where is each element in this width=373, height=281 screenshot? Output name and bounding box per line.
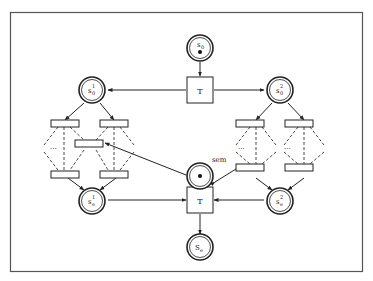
- transition-bar: [100, 171, 128, 178]
- transition-T-top: T: [187, 77, 213, 103]
- transition-bar-sem: [236, 164, 264, 171]
- token: [198, 174, 202, 178]
- svg-text:1: 1: [92, 83, 95, 89]
- place-se-2: s e 2: [267, 188, 293, 214]
- petri-net-diagram: ... ... ... T T s 0: [0, 0, 373, 281]
- svg-text:1: 1: [92, 194, 95, 200]
- svg-text:...: ...: [238, 143, 245, 151]
- svg-text:T: T: [197, 87, 203, 96]
- place-s0: s 0: [187, 35, 213, 61]
- place-se: S e: [187, 234, 213, 260]
- transition-T-bottom: T: [187, 187, 213, 213]
- svg-text:T: T: [197, 197, 203, 206]
- place-sem: sem: [187, 156, 227, 189]
- svg-text:e: e: [200, 247, 203, 253]
- svg-text:e: e: [92, 201, 95, 207]
- place-se-1: s e 1: [79, 188, 105, 214]
- svg-text:0: 0: [280, 90, 283, 96]
- svg-text:0: 0: [92, 90, 95, 96]
- svg-text:...: ...: [50, 143, 57, 151]
- transition-bar: [51, 120, 79, 127]
- place-s0-1: s 0 1: [79, 77, 105, 103]
- diagram-frame: [11, 13, 363, 272]
- svg-text:2: 2: [280, 83, 283, 89]
- transition-bar: [236, 120, 264, 127]
- svg-text:sem: sem: [212, 156, 227, 164]
- svg-text:e: e: [280, 201, 283, 207]
- transition-bar: [285, 120, 313, 127]
- transition-bar-sem: [75, 140, 103, 147]
- svg-text:0: 0: [201, 44, 204, 50]
- svg-text:2: 2: [280, 194, 283, 200]
- place-s0-2: s 0 2: [267, 77, 293, 103]
- transition-bar: [100, 120, 128, 127]
- transition-bar: [51, 171, 79, 178]
- svg-text:...: ...: [284, 143, 291, 151]
- transition-bar: [285, 164, 313, 171]
- token: [198, 50, 202, 54]
